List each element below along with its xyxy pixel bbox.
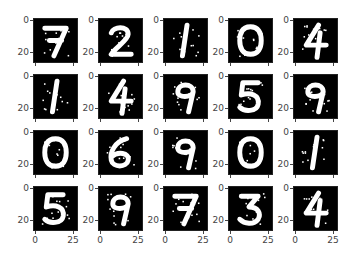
y-tick-mark [30, 164, 33, 165]
y-tick-mark [225, 220, 228, 221]
digit-image-panel [228, 74, 273, 119]
digit-4-glyph [99, 75, 142, 118]
y-tick-label: 20 [210, 160, 224, 169]
y-tick-label: 0 [275, 128, 289, 137]
x-tick-label: 0 [222, 236, 238, 245]
digit-1-glyph [164, 19, 207, 62]
x-tick-mark [138, 119, 139, 122]
y-tick-mark [290, 52, 293, 53]
y-tick-label: 0 [145, 16, 159, 25]
y-tick-mark [290, 164, 293, 165]
y-tick-mark [30, 132, 33, 133]
x-tick-mark [100, 175, 101, 178]
y-tick-mark [95, 132, 98, 133]
y-tick-mark [290, 220, 293, 221]
x-tick-mark [268, 63, 269, 66]
x-tick-mark [230, 63, 231, 66]
digit-7-glyph [164, 187, 207, 230]
y-tick-mark [95, 188, 98, 189]
y-tick-mark [95, 76, 98, 77]
x-tick-mark [230, 231, 231, 234]
x-tick-label: 25 [195, 236, 211, 245]
y-tick-label: 0 [15, 128, 29, 137]
digit-image-panel [293, 18, 338, 63]
y-tick-label: 0 [145, 128, 159, 137]
y-tick-mark [95, 164, 98, 165]
y-tick-label: 20 [145, 160, 159, 169]
x-tick-mark [268, 119, 269, 122]
y-tick-mark [160, 188, 163, 189]
y-tick-mark [225, 188, 228, 189]
y-tick-label: 20 [210, 48, 224, 57]
x-tick-mark [35, 231, 36, 234]
x-tick-mark [333, 231, 334, 234]
digit-image-panel [228, 186, 273, 231]
y-tick-label: 20 [15, 48, 29, 57]
digit-image-panel [98, 186, 143, 231]
x-tick-mark [333, 175, 334, 178]
y-tick-mark [160, 220, 163, 221]
digit-image-panel [293, 186, 338, 231]
y-tick-label: 0 [275, 184, 289, 193]
y-tick-mark [30, 220, 33, 221]
y-tick-label: 20 [275, 104, 289, 113]
y-tick-mark [95, 108, 98, 109]
y-tick-label: 0 [145, 184, 159, 193]
x-tick-mark [165, 119, 166, 122]
digit-image-panel [163, 130, 208, 175]
y-tick-mark [160, 132, 163, 133]
y-tick-label: 20 [275, 160, 289, 169]
digit-image-panel [33, 74, 78, 119]
digit-9-glyph [164, 75, 207, 118]
y-tick-label: 0 [275, 72, 289, 81]
x-tick-label: 0 [157, 236, 173, 245]
y-tick-label: 20 [80, 48, 94, 57]
y-tick-mark [160, 108, 163, 109]
y-tick-mark [160, 76, 163, 77]
x-tick-mark [100, 119, 101, 122]
y-tick-mark [225, 52, 228, 53]
digit-4-glyph [294, 19, 337, 62]
y-tick-label: 20 [145, 216, 159, 225]
x-tick-label: 0 [92, 236, 108, 245]
y-tick-label: 20 [80, 160, 94, 169]
y-tick-mark [225, 132, 228, 133]
y-tick-mark [30, 188, 33, 189]
digit-image-panel [228, 130, 273, 175]
y-tick-label: 0 [210, 72, 224, 81]
y-tick-label: 20 [15, 104, 29, 113]
y-tick-label: 20 [275, 48, 289, 57]
y-tick-mark [30, 20, 33, 21]
digit-image-panel [98, 130, 143, 175]
y-tick-label: 20 [80, 104, 94, 113]
y-tick-label: 0 [15, 184, 29, 193]
y-tick-label: 0 [80, 16, 94, 25]
y-tick-label: 20 [15, 216, 29, 225]
digit-image-panel [293, 74, 338, 119]
x-tick-mark [295, 231, 296, 234]
y-tick-label: 20 [145, 104, 159, 113]
y-tick-label: 0 [15, 16, 29, 25]
y-tick-mark [30, 76, 33, 77]
digit-0-glyph [229, 19, 272, 62]
y-tick-mark [225, 20, 228, 21]
x-tick-mark [203, 231, 204, 234]
y-tick-label: 0 [210, 184, 224, 193]
digit-9-glyph [99, 187, 142, 230]
y-tick-mark [225, 76, 228, 77]
digit-image-panel [33, 18, 78, 63]
y-tick-mark [160, 52, 163, 53]
x-tick-mark [73, 63, 74, 66]
x-tick-mark [138, 63, 139, 66]
x-tick-mark [73, 231, 74, 234]
x-tick-mark [73, 119, 74, 122]
y-tick-label: 0 [145, 72, 159, 81]
y-tick-mark [225, 108, 228, 109]
x-tick-label: 0 [287, 236, 303, 245]
digit-image-panel [163, 186, 208, 231]
x-tick-mark [165, 63, 166, 66]
x-tick-mark [35, 63, 36, 66]
digit-7-glyph [34, 19, 77, 62]
x-tick-mark [333, 63, 334, 66]
y-tick-mark [95, 20, 98, 21]
